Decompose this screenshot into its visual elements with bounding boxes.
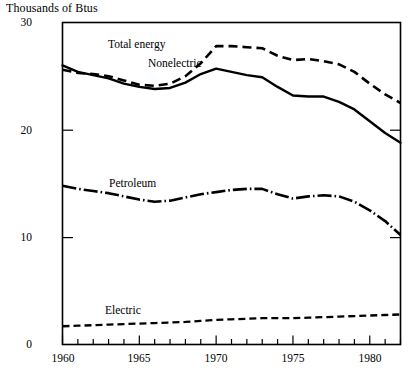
series-label-nonelectric: Nonelectric [148, 57, 202, 69]
y-tick-label-0: 0 [8, 338, 32, 350]
series-electric [63, 314, 401, 326]
x-tick-label-1980: 1980 [350, 352, 390, 364]
series-label-petroleum: Petroleum [109, 177, 156, 189]
chart-plot-area [0, 0, 411, 378]
x-tick-label-1970: 1970 [196, 352, 236, 364]
chart-figure: Thousands of Btus 30 2 [0, 0, 411, 378]
y-tick-label-10: 10 [8, 231, 32, 243]
x-tick-label-1975: 1975 [273, 352, 313, 364]
y-tick-label-20: 20 [8, 124, 32, 136]
series-total-energy [63, 46, 401, 103]
y-axis-ticks-right [390, 130, 401, 237]
x-tick-label-1965: 1965 [119, 352, 159, 364]
y-axis-ticks [63, 130, 74, 237]
series-label-electric: Electric [105, 304, 141, 316]
y-tick-label-30: 30 [8, 16, 32, 28]
x-axis-ticks [63, 336, 401, 345]
x-tick-label-1960: 1960 [43, 352, 83, 364]
series-nonelectric [63, 65, 401, 142]
series-petroleum [63, 186, 401, 235]
series-label-total-energy: Total energy [108, 38, 165, 50]
